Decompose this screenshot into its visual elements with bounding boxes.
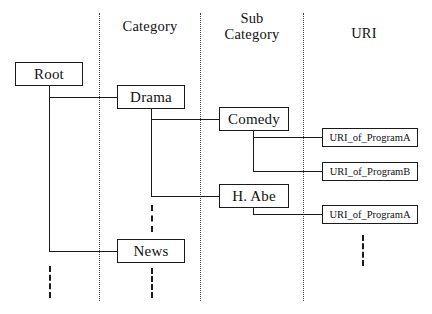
diagram-canvas: Category Sub Category URI Root Drama New… xyxy=(0,0,432,314)
node-uri-of-programa-h-abe[interactable]: URI_of_ProgramA xyxy=(322,205,418,224)
node-uri-of-programb-comedy[interactable]: URI_of_ProgramB xyxy=(322,162,418,181)
column-header-uri: URI xyxy=(316,25,412,41)
connector-root-trunk xyxy=(49,85,50,252)
connector-root-to-drama xyxy=(49,97,118,98)
connector-drama-to-comedy xyxy=(151,119,220,120)
connector-comedy-to-uri-b xyxy=(253,171,323,172)
column-separator-uri xyxy=(303,13,304,301)
node-h-abe[interactable]: H. Abe xyxy=(219,184,289,208)
ellipsis-root-column xyxy=(49,266,51,298)
node-news[interactable]: News xyxy=(117,239,185,263)
node-root[interactable]: Root xyxy=(15,62,83,86)
ellipsis-category-column-upper xyxy=(151,205,153,232)
column-separator-sub-category xyxy=(200,13,201,301)
column-header-category: Category xyxy=(106,18,194,34)
ellipsis-uri-column xyxy=(362,235,364,266)
node-uri-of-programa-comedy[interactable]: URI_of_ProgramA xyxy=(322,128,418,147)
connector-root-to-news xyxy=(49,251,118,252)
connector-drama-to-h-abe xyxy=(151,196,220,197)
node-drama[interactable]: Drama xyxy=(117,85,185,109)
column-header-sub-category: Sub Category xyxy=(208,10,296,42)
connector-comedy-to-uri-a xyxy=(253,137,323,138)
node-comedy[interactable]: Comedy xyxy=(219,107,289,131)
connector-h-abe-to-uri-a xyxy=(253,214,323,215)
ellipsis-category-column-lower xyxy=(151,268,153,298)
connector-drama-trunk xyxy=(151,108,152,197)
column-separator-category xyxy=(99,13,100,301)
